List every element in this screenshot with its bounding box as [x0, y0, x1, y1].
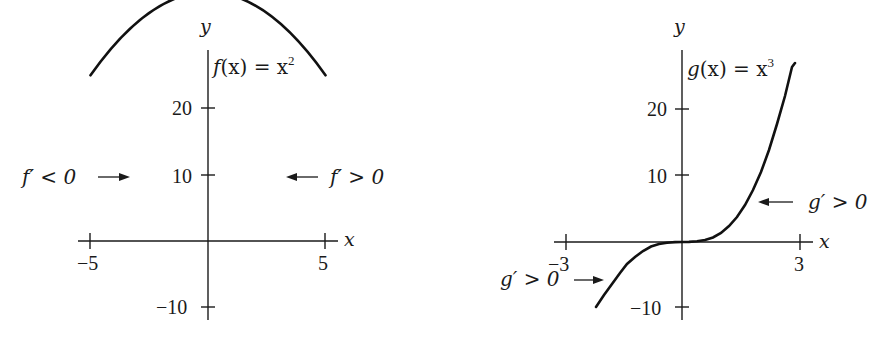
right-y-axis-label: y: [673, 15, 685, 37]
right-arrowhead-upper: [758, 198, 769, 206]
right-x-axis-label: x: [819, 230, 830, 252]
left-chart: y x f(x) = x2 −5 5 20 10 −10 f′ < 0 f′ >…: [20, 0, 384, 320]
right-arrowhead-lower: [593, 276, 604, 284]
left-x-axis-label: x: [344, 228, 355, 250]
right-y-tick-label-neg10: −10: [630, 297, 661, 319]
left-y-tick-label-20: 20: [172, 97, 192, 119]
left-arrowhead-decreasing: [119, 173, 130, 181]
right-y-tick-label-10: 10: [647, 165, 667, 187]
left-y-tick-label-10: 10: [172, 165, 192, 187]
right-func-body: (x) = x: [700, 57, 768, 81]
right-y-tick-label-20: 20: [647, 98, 667, 120]
left-func-exp: 2: [288, 53, 295, 68]
right-x-tick-label-3: 3: [794, 253, 804, 275]
right-annotation-lower: g′ > 0: [500, 267, 560, 291]
left-annotation-decreasing: f′ < 0: [20, 165, 76, 189]
right-arrowhead-increasing-f: [286, 173, 297, 181]
left-func-body: (x) = x: [220, 55, 288, 79]
right-curve-cubic: [596, 63, 795, 307]
figure: y x f(x) = x2 −5 5 20 10 −10 f′ < 0 f′ >…: [0, 0, 891, 338]
right-annotation-upper: g′ > 0: [808, 190, 868, 214]
right-chart: y x g(x) = x3 −3 3 20 10 −10 g′ > 0 g′ >…: [500, 15, 868, 320]
left-x-tick-label-neg5: −5: [77, 252, 98, 274]
left-x-tick-label-5: 5: [318, 252, 328, 274]
left-function-label: f(x) = x2: [211, 53, 295, 79]
right-func-exp: 3: [767, 55, 774, 70]
left-y-tick-label-neg10: −10: [156, 296, 187, 318]
right-func-name: g: [687, 57, 700, 81]
right-function-label: g(x) = x3: [687, 55, 774, 81]
left-y-axis-label: y: [199, 15, 211, 37]
left-annotation-increasing: f′ > 0: [328, 165, 384, 189]
